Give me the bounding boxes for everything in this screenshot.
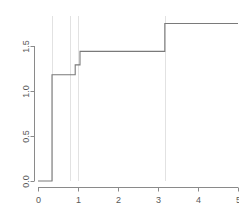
y-tick-label-3: 1.5	[21, 40, 31, 53]
chart-container: 0.00.51.01.5 012345	[0, 0, 239, 213]
x-tick-label-3: 3	[156, 195, 161, 205]
step-function-chart: 0.00.51.01.5 012345	[0, 0, 239, 213]
x-tick-label-2: 2	[116, 195, 121, 205]
y-tick-label-2: 1.0	[21, 85, 31, 98]
y-tick-label-0: 0.0	[21, 175, 31, 188]
x-tick-label-4: 4	[196, 195, 201, 205]
chart-background	[0, 0, 239, 213]
y-tick-label-1: 0.5	[21, 130, 31, 143]
x-tick-label-1: 1	[76, 195, 81, 205]
x-tick-label-0: 0	[36, 195, 41, 205]
x-tick-label-5: 5	[236, 195, 239, 205]
